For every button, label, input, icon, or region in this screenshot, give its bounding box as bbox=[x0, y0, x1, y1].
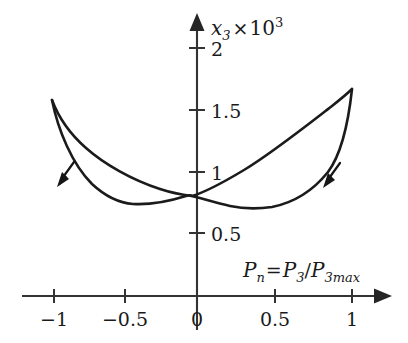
x-label-den-sub: 3max bbox=[324, 270, 360, 285]
y-tick-label-1.5: 1.5 bbox=[211, 100, 241, 122]
y-axis-label: x3×103 bbox=[211, 15, 283, 43]
x-tick-label--0.5: −0.5 bbox=[102, 308, 148, 330]
x-axis-arrowhead bbox=[374, 289, 392, 304]
x-tick-label-0.5: 0.5 bbox=[260, 308, 290, 330]
y-tick-labels: 2 1.5 1 0.5 bbox=[211, 38, 241, 245]
y-tick-label-2: 2 bbox=[211, 38, 223, 60]
y-label-var: x bbox=[211, 16, 222, 40]
direction-arrow-left bbox=[57, 162, 74, 187]
y-axis-arrowhead bbox=[190, 13, 205, 31]
curve-upper-branch bbox=[52, 89, 352, 196]
x-tick-label--1: −1 bbox=[40, 308, 68, 330]
hysteresis-loop-chart: −1 −0.5 0 0.5 1 2 1.5 1 0.5 x3×103 Pn=P3… bbox=[0, 0, 408, 343]
x-tick-label-1: 1 bbox=[346, 308, 358, 330]
x-label-num-sub: 3 bbox=[296, 270, 304, 285]
y-tick-label-1: 1 bbox=[211, 162, 223, 184]
x-tick-label-0: 0 bbox=[191, 308, 203, 330]
x-label-den: P bbox=[310, 258, 325, 282]
x-label-var-sub: n bbox=[256, 270, 264, 285]
x-label-equals: = bbox=[266, 259, 282, 281]
y-label-base: 10 bbox=[249, 16, 274, 40]
x-axis-label: Pn=P3/P3max bbox=[242, 258, 361, 285]
direction-arrow-left-head-fill bbox=[57, 172, 69, 187]
y-label-times: × bbox=[233, 17, 249, 39]
y-axis-label-text: x3×103 bbox=[211, 15, 283, 43]
x-label-num: P bbox=[282, 258, 297, 282]
y-label-exp: 3 bbox=[275, 15, 283, 30]
x-axis-label-text: Pn=P3/P3max bbox=[242, 258, 361, 285]
chart-figure: −1 −0.5 0 0.5 1 2 1.5 1 0.5 x3×103 Pn=P3… bbox=[0, 0, 408, 343]
x-label-var: P bbox=[242, 258, 257, 282]
y-label-var-sub: 3 bbox=[222, 28, 230, 43]
y-tick-label-0.5: 0.5 bbox=[211, 223, 241, 245]
curve-lower-branch bbox=[52, 89, 352, 208]
x-tick-labels: −1 −0.5 0 0.5 1 bbox=[40, 308, 358, 330]
